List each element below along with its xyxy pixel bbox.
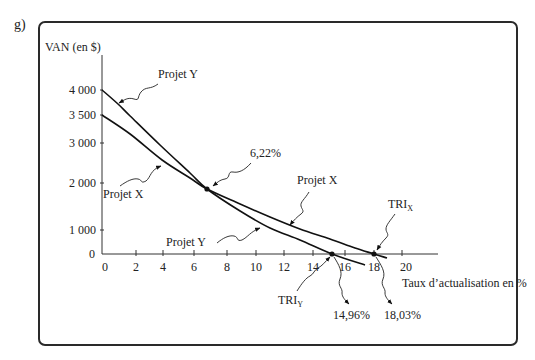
- y-axis-label: VAN (en $): [45, 40, 101, 54]
- label-projet-y-top: Projet Y: [158, 67, 198, 81]
- arrow-projet-x-left: [120, 166, 161, 186]
- figure-label: g): [14, 17, 26, 33]
- npv-profile-figure: g) VAN (en $) 0 1 000 2 000 3 000 3 500 …: [0, 0, 535, 360]
- x-tick-label: 8: [224, 260, 230, 274]
- curve-projet-x: [102, 115, 387, 258]
- label-projet-y-bottom: Projet Y: [166, 235, 206, 249]
- arrow-crossover: [213, 163, 251, 186]
- x-tick-labels: 0 2 4 6 8 10 12 14 16 18 20: [102, 260, 412, 274]
- x-tick-label: 12: [278, 260, 290, 274]
- arrow-projet-x-right: [290, 192, 309, 225]
- tri-y-subscript: Y: [297, 300, 303, 309]
- label-projet-x-right: Projet X: [297, 173, 338, 187]
- tri-x-point: [371, 251, 376, 256]
- label-tri-x: TRIX: [388, 197, 413, 213]
- x-tick-label: 4: [160, 260, 166, 274]
- crossover-point: [204, 186, 209, 191]
- y-tick-labels: 0 1 000 2 000 3 000 3 500 4 000: [69, 83, 96, 261]
- y-tick-label: 3 500: [69, 108, 96, 122]
- x-tick-label: 2: [133, 260, 139, 274]
- label-tri-y-value: 14,96%: [333, 308, 370, 322]
- arrow-tri-x: [377, 214, 395, 250]
- y-tick-label: 3 000: [69, 136, 96, 150]
- y-tick-label: 4 000: [69, 83, 96, 97]
- arrow-projet-y-bottom: [217, 228, 260, 243]
- y-tick-label: 2 000: [69, 176, 96, 190]
- x-tick-label: 10: [250, 260, 262, 274]
- x-tick-label: 14: [307, 260, 319, 274]
- x-tick-label: 0: [102, 260, 108, 274]
- label-tri-x-value: 18,03%: [384, 308, 421, 322]
- tri-x-text: TRI: [388, 197, 407, 211]
- x-axis-label: Taux d’actualisation en %: [402, 276, 527, 290]
- y-tick-label: 0: [89, 247, 95, 261]
- label-projet-x-left: Projet X: [103, 187, 144, 201]
- arrow-projet-y-top: [119, 84, 158, 103]
- x-tick-label: 20: [400, 260, 412, 274]
- tri-y-text: TRI: [278, 293, 297, 307]
- x-tick-label: 6: [191, 260, 197, 274]
- y-tick-label: 1 000: [69, 223, 96, 237]
- tri-y-point: [329, 251, 334, 256]
- label-tri-y: TRIY: [278, 293, 303, 309]
- x-tick-label: 18: [368, 260, 380, 274]
- label-crossover-rate: 6,22%: [250, 146, 281, 160]
- tri-x-subscript: X: [407, 204, 413, 213]
